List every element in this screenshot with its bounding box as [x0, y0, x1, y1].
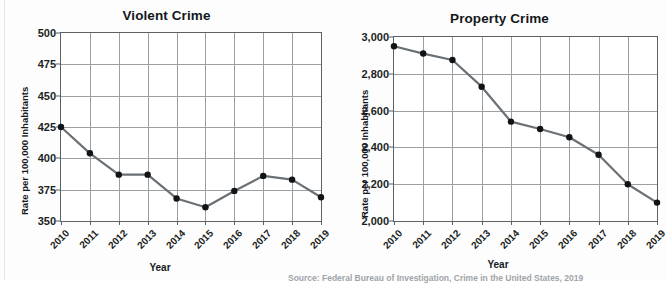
x-tick-label-2018: 2018 [273, 227, 302, 256]
chart-panel-property-crime: Property Crime Rate per 100,000 Inhabita… [333, 0, 666, 280]
x-tick-mark [511, 221, 512, 225]
data-point-2012 [449, 57, 455, 63]
x-tick-label-2019: 2019 [638, 227, 666, 256]
x-tick-mark [61, 221, 62, 225]
x-axis-title-violent-crime: Year [120, 262, 200, 273]
y-tick-label-violent-crime: 400 [38, 152, 56, 164]
data-point-2011 [420, 50, 426, 56]
data-line [61, 127, 321, 207]
data-point-2018 [625, 181, 631, 187]
y-tick-label-violent-crime: 500 [38, 27, 56, 39]
x-tick-label-2012: 2012 [434, 227, 463, 256]
y-tick-label-violent-crime: 425 [38, 121, 56, 133]
x-tick-label-2017: 2017 [580, 227, 609, 256]
x-tick-mark [205, 221, 206, 225]
x-tick-label-2012: 2012 [100, 227, 129, 256]
x-tick-mark [423, 221, 424, 225]
y-tick-label-property-crime: 2,000 [361, 215, 389, 227]
x-tick-mark [540, 221, 541, 225]
data-point-2012 [116, 171, 122, 177]
data-point-2010 [391, 43, 397, 49]
x-tick-label-2014: 2014 [492, 227, 521, 256]
x-tick-label-2015: 2015 [521, 227, 550, 256]
x-tick-mark [321, 221, 322, 225]
data-point-2011 [87, 150, 93, 156]
chart-panel-violent-crime: Violent Crime Rate per 100,000 Inhabitan… [0, 0, 333, 280]
x-tick-mark [569, 221, 570, 225]
x-tick-label-2013: 2013 [463, 227, 492, 256]
y-tick-label-property-crime: 2,200 [361, 178, 389, 190]
data-point-2019 [654, 199, 660, 205]
x-tick-label-2011: 2011 [405, 227, 434, 256]
y-tick-label-violent-crime: 350 [38, 215, 56, 227]
x-tick-label-2018: 2018 [609, 227, 638, 256]
x-tick-label-2017: 2017 [245, 227, 274, 256]
data-point-2017 [595, 152, 601, 158]
data-point-2015 [537, 126, 543, 132]
x-tick-mark [90, 221, 91, 225]
x-tick-mark [119, 221, 120, 225]
x-tick-mark [482, 221, 483, 225]
data-point-2014 [173, 195, 179, 201]
chart-title-violent-crime: Violent Crime [0, 8, 333, 23]
chart-title-property-crime: Property Crime [333, 11, 666, 26]
x-tick-mark [657, 221, 658, 225]
x-tick-mark [394, 221, 395, 225]
series-line-property-crime [394, 37, 657, 221]
x-tick-mark [452, 221, 453, 225]
x-tick-label-2014: 2014 [158, 227, 187, 256]
data-point-2015 [202, 204, 208, 210]
y-tick-label-property-crime: 3,000 [361, 31, 389, 43]
plot-area-violent-crime: 3503754004254504755002010201120122013201… [60, 32, 322, 222]
x-tick-mark [148, 221, 149, 225]
x-tick-mark [234, 221, 235, 225]
x-tick-mark [263, 221, 264, 225]
data-line [394, 46, 657, 202]
y-tick-label-violent-crime: 450 [38, 90, 56, 102]
x-tick-mark [628, 221, 629, 225]
x-tick-mark [292, 221, 293, 225]
data-point-2013 [144, 171, 150, 177]
x-tick-label-2010: 2010 [42, 227, 71, 256]
x-tick-mark [599, 221, 600, 225]
data-point-2016 [566, 134, 572, 140]
y-tick-label-property-crime: 2,600 [361, 105, 389, 117]
x-axis-title-property-crime: Year [458, 259, 538, 270]
x-tick-label-2015: 2015 [187, 227, 216, 256]
x-tick-label-2016: 2016 [551, 227, 580, 256]
x-tick-label-2013: 2013 [129, 227, 158, 256]
source-note: Source: Federal Bureau of Investigation,… [288, 273, 666, 283]
y-tick-label-violent-crime: 475 [38, 58, 56, 70]
x-tick-label-2011: 2011 [71, 227, 100, 256]
data-point-2010 [58, 124, 64, 130]
x-tick-label-2010: 2010 [375, 227, 404, 256]
y-tick-label-violent-crime: 375 [38, 184, 56, 196]
y-axis-title-violent-crime: Rate per 100,000 Inhabitants [19, 87, 30, 215]
y-tick-label-property-crime: 2,400 [361, 141, 389, 153]
data-point-2019 [318, 194, 324, 200]
x-tick-label-2019: 2019 [302, 227, 331, 256]
data-point-2017 [260, 173, 266, 179]
series-line-violent-crime [61, 33, 321, 221]
x-tick-label-2016: 2016 [216, 227, 245, 256]
y-tick-label-property-crime: 2,800 [361, 68, 389, 80]
plot-area-property-crime: 2,0002,2002,4002,6002,8003,0002010201120… [393, 36, 658, 222]
data-point-2016 [231, 188, 237, 194]
data-point-2018 [289, 176, 295, 182]
data-point-2014 [508, 118, 514, 124]
x-tick-mark [177, 221, 178, 225]
data-point-2013 [478, 83, 484, 89]
